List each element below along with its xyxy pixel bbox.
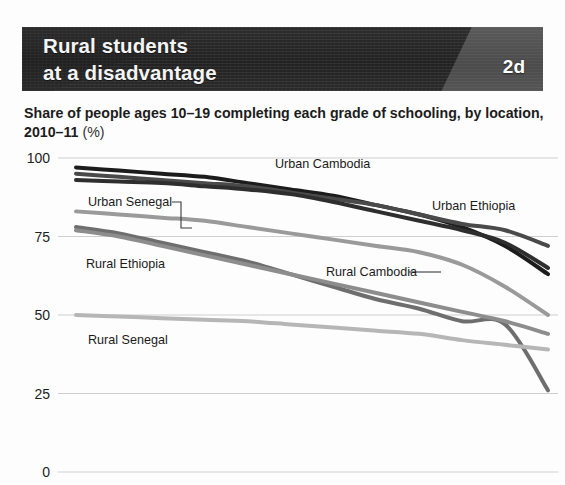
series-label-urban-cambodia: Urban Cambodia: [275, 157, 370, 171]
chart-svg: 1007550250 Urban CambodiaUrban EthiopiaU…: [0, 0, 565, 485]
series-label-rural-cambodia: Rural Cambodia: [326, 265, 417, 279]
y-tick-75: 75: [34, 229, 50, 245]
series-label-urban-ethiopia: Urban Ethiopia: [432, 199, 515, 213]
series-label-urban-senegal: Urban Senegal: [88, 195, 172, 209]
figure-panel: Rural students at a disadvantage 2d Shar…: [0, 0, 565, 485]
y-tick-25: 25: [34, 386, 50, 402]
y-tick-50: 50: [34, 307, 50, 323]
y-tick-100: 100: [27, 150, 51, 166]
series-line-rural-ethiopia: [76, 227, 548, 390]
y-tick-0: 0: [42, 464, 50, 480]
leader-line-urban-senegal: [172, 202, 192, 228]
series-label-rural-ethiopia: Rural Ethiopia: [86, 257, 165, 271]
y-axis-tick-labels: 1007550250: [27, 150, 51, 480]
line-chart: 1007550250 Urban CambodiaUrban EthiopiaU…: [0, 0, 565, 485]
series-label-rural-senegal: Rural Senegal: [88, 333, 168, 347]
